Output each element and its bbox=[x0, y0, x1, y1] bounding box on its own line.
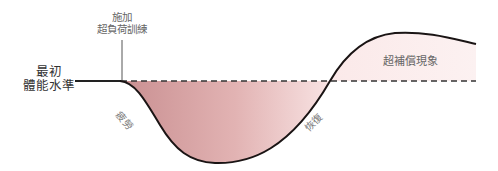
overload-annotation-line2: 超負荷訓練 bbox=[82, 23, 162, 35]
initial-level-line2: 體能水準 bbox=[14, 79, 84, 93]
initial-level-label: 最初 體能水準 bbox=[14, 65, 84, 94]
overload-annotation: 施加 超負荷訓練 bbox=[82, 11, 162, 35]
initial-level-line1: 最初 bbox=[14, 65, 84, 79]
supercompensation-label: 超補償現象 bbox=[383, 56, 438, 69]
fatigue-area bbox=[120, 81, 330, 163]
overload-annotation-line1: 施加 bbox=[82, 11, 162, 23]
